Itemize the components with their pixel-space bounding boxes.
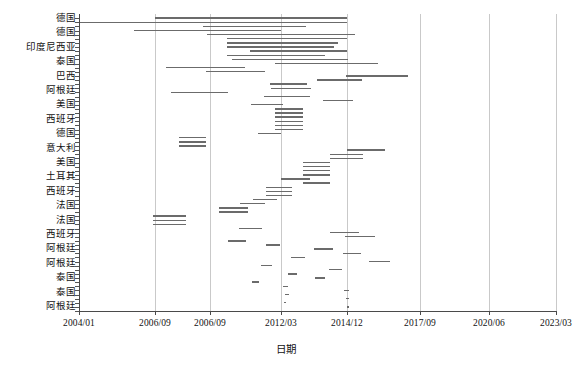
gantt-bar [179, 141, 206, 142]
y-axis-label-8: 德国 [4, 128, 76, 138]
x-axis-tick [420, 311, 421, 315]
gantt-bar [345, 236, 375, 237]
gantt-bar [344, 290, 349, 291]
gantt-bar [239, 228, 262, 229]
gantt-bar [281, 178, 310, 179]
y-axis-label-17: 阿根廷 [4, 258, 76, 268]
y-axis-label-19: 泰国 [4, 287, 76, 297]
x-axis-label-0: 2004/01 [63, 318, 95, 328]
x-axis-label-7: 2023/03 [540, 318, 572, 328]
gantt-bar [275, 116, 303, 117]
x-axis-tick [347, 311, 348, 315]
gantt-bar [303, 170, 330, 171]
gantt-bar [343, 253, 361, 254]
x-axis-label-3: 2012/03 [265, 318, 297, 328]
x-axis-tick [281, 311, 282, 315]
y-axis-label-16: 阿根廷 [4, 243, 76, 253]
gantt-bar [284, 302, 286, 303]
y-axis-line [79, 14, 80, 311]
gantt-bar [347, 149, 385, 150]
gantt-bar [155, 17, 347, 18]
gantt-bar [346, 298, 349, 299]
gantt-bar [288, 273, 297, 274]
gridline-2020-06 [489, 14, 490, 311]
gantt-bar [240, 203, 265, 204]
gantt-bar [153, 215, 186, 216]
gantt-bar [315, 277, 325, 278]
x-axis-tick [556, 311, 557, 315]
y-axis-label-1: 德国 [4, 27, 76, 37]
gantt-bar [347, 306, 349, 307]
y-axis-label-13: 法国 [4, 200, 76, 210]
gantt-bar [283, 286, 288, 287]
gantt-bar [166, 67, 245, 68]
gantt-bar [252, 281, 259, 282]
gantt-bar [227, 55, 325, 56]
gridline-2006-09 [155, 14, 156, 311]
y-axis-label-9: 意大利 [4, 143, 76, 153]
plot-area [79, 14, 556, 311]
gantt-bar [227, 42, 338, 43]
gantt-bar [303, 182, 330, 183]
y-axis-label-6: 美国 [4, 99, 76, 109]
gantt-bar [275, 129, 303, 130]
gantt-bar [271, 88, 311, 89]
gantt-bar [266, 191, 292, 192]
x-axis-label-5: 2017/09 [404, 318, 436, 328]
x-axis-label-4: 2014/12 [331, 318, 363, 328]
y-axis-label-10: 美国 [4, 157, 76, 167]
gantt-bar [203, 26, 306, 27]
gantt-bar [275, 63, 378, 64]
y-axis-label-7: 西班牙 [4, 114, 76, 124]
gantt-bar [330, 158, 363, 159]
y-axis-label-2: 印度尼西亚 [4, 42, 76, 52]
y-axis-label-0: 德国 [4, 13, 76, 23]
y-axis-label-11: 土耳其 [4, 171, 76, 181]
gantt-bar [258, 133, 281, 134]
y-axis-label-14: 法国 [4, 215, 76, 225]
gantt-bar [323, 100, 353, 101]
chart-figure: 德国德国印度尼西亚泰国巴西阿根廷美国西班牙德国意大利美国土耳其西班牙法国法国西班… [0, 0, 572, 365]
gantt-bar [207, 34, 355, 35]
gantt-bar [266, 244, 280, 245]
x-axis-line [79, 311, 556, 312]
x-axis-tick [79, 311, 80, 315]
gantt-bar [330, 154, 363, 155]
gantt-bar [261, 265, 272, 266]
gantt-bar [153, 220, 186, 221]
gantt-bar [251, 104, 283, 105]
gantt-bar [369, 261, 390, 262]
y-axis-label-5: 阿根廷 [4, 85, 76, 95]
gantt-bar [317, 79, 362, 80]
gantt-bar [291, 257, 305, 258]
gantt-bar [264, 96, 310, 97]
y-axis-labels: 德国德国印度尼西亚泰国巴西阿根廷美国西班牙德国意大利美国土耳其西班牙法国法国西班… [0, 0, 76, 365]
x-axis-tick [210, 311, 211, 315]
gantt-bar [232, 59, 348, 60]
gantt-bar [228, 240, 246, 241]
gantt-bar [227, 46, 334, 47]
gantt-bar [179, 145, 206, 146]
y-axis-label-4: 巴西 [4, 71, 76, 81]
gantt-bar [266, 195, 292, 196]
gantt-bar [266, 187, 292, 188]
y-axis-label-20: 阿根廷 [4, 301, 76, 311]
y-axis-label-18: 泰国 [4, 272, 76, 282]
gantt-bar [79, 22, 347, 23]
gantt-bar [303, 166, 330, 167]
gantt-bar [314, 248, 333, 249]
y-axis-label-15: 西班牙 [4, 229, 76, 239]
gantt-bar [219, 207, 248, 208]
gantt-bar [153, 224, 186, 225]
gantt-bar [275, 108, 303, 109]
gantt-bar [346, 75, 408, 76]
gantt-bar [275, 125, 303, 126]
gantt-bar [303, 162, 330, 163]
gantt-bar [227, 38, 347, 39]
y-axis-label-12: 西班牙 [4, 186, 76, 196]
gantt-bar [219, 211, 248, 212]
x-axis-label-1: 2006/09 [139, 318, 171, 328]
gantt-bar [275, 121, 303, 122]
gantt-bar [285, 294, 289, 295]
gridline-2006-09 [210, 14, 211, 311]
